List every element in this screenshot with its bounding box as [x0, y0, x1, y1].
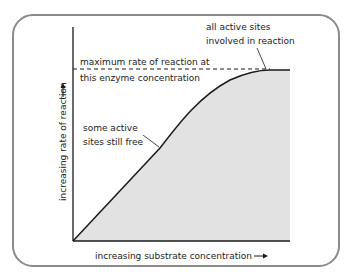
enzyme-rate-diagram: maximum rate of reaction at this enzyme … [0, 0, 351, 274]
max-rate-label-line1: maximum rate of reaction at [80, 57, 210, 67]
x-axis-label: increasing substrate concentration [95, 251, 252, 261]
all-sites-label-line1: all active sites [206, 22, 271, 32]
all-sites-label-line2: involved in reaction [206, 36, 295, 46]
max-rate-label-line2: this enzyme concentration [80, 73, 200, 83]
y-axis-label: increasing rate of reaction [58, 82, 68, 201]
some-sites-label-line1: some active [83, 123, 138, 133]
some-sites-label-line2: sites still free [83, 137, 144, 147]
